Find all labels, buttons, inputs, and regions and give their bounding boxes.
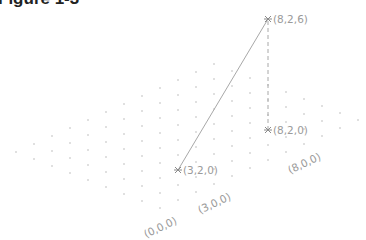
grid-dot [105,156,107,158]
grid-dot [87,179,89,181]
grid-dot [69,172,71,174]
grid-dot [231,130,233,132]
grid-dot [285,136,287,138]
grid-dot [285,91,287,93]
grid-dot [195,116,197,118]
isometric-3d-plot: (3,2,0)(8,2,6)(8,2,0) (0,0,0)(3,0,0)(8,0… [0,0,366,240]
grid-dot [357,119,359,121]
grid-dot [159,192,161,194]
grid-dot [51,135,53,137]
solid-line [178,19,268,170]
grid-dot [195,161,197,163]
point-label: (8,2,6) [273,13,308,25]
grid-dot [231,175,233,177]
grid-dot [213,93,215,95]
point-label: (8,2,0) [273,124,308,136]
grid-dot [267,159,269,161]
grid-dot [213,183,215,185]
grid-dot [321,120,323,122]
point-label: (3,2,0) [183,164,218,176]
grid-dot [213,123,215,125]
grid-dot [285,106,287,108]
grid-dot [105,186,107,188]
grid-dot [141,170,143,172]
grid-dot [69,157,71,159]
grid-dot [141,155,143,157]
grid-dot [159,132,161,134]
grid-dot [177,199,179,201]
grid-dot [177,124,179,126]
grid-dot [123,148,125,150]
point-marker-p2: (8,2,6) [264,13,308,25]
grid-dot [213,138,215,140]
grid-dot [141,125,143,127]
grid-dot [159,207,161,209]
grid-dot [159,147,161,149]
grid-dot [213,78,215,80]
grid-dot [177,94,179,96]
grid-dot [249,92,251,94]
grid-dot [141,185,143,187]
grid-dot [231,85,233,87]
grid-dot [339,112,341,114]
grid-dot [339,127,341,129]
grid-dot [69,142,71,144]
grid-dot [123,118,125,120]
grid-dot [87,149,89,151]
axis-label: (8,0,0) [286,150,323,176]
grid-dot [51,165,53,167]
grid-dot [249,77,251,79]
grid-dot [87,134,89,136]
grid-dot [141,140,143,142]
grid-dot [303,98,305,100]
grid-dot [177,184,179,186]
line-segments [178,19,268,170]
grid-dot [159,102,161,104]
grid-dot [195,86,197,88]
grid-dot [33,158,35,160]
grid-dot [249,152,251,154]
grid-dot [177,154,179,156]
grid-dot [195,176,197,178]
grid-dot [303,113,305,115]
grid-dot [159,117,161,119]
grid-dot [231,100,233,102]
grid-dot [123,193,125,195]
grid-dot [177,109,179,111]
grid-dot [15,151,17,153]
grid-dot [141,95,143,97]
grid-dot [321,135,323,137]
axis-labels: (0,0,0)(3,0,0)(8,0,0) [142,150,323,240]
grid-dot [231,70,233,72]
grid-dot [105,111,107,113]
grid-dot [159,177,161,179]
grid-dot [123,103,125,105]
grid-dot [195,131,197,133]
axis-label: (0,0,0) [142,214,179,240]
grid-dot [195,101,197,103]
grid-dot [213,153,215,155]
grid-dot [87,164,89,166]
grid-dot [123,178,125,180]
grid-dot [141,110,143,112]
grid-dot [285,151,287,153]
grid-dot [177,79,179,81]
grid-dots [15,63,359,209]
grid-dot [231,160,233,162]
grid-dot [285,121,287,123]
grid-dot [69,127,71,129]
grid-dot [231,115,233,117]
grid-dot [123,133,125,135]
grid-dot [159,87,161,89]
grid-dot [303,143,305,145]
grid-dot [51,150,53,152]
point-marker-p3: (8,2,0) [264,124,308,136]
grid-dot [159,162,161,164]
grid-dot [105,126,107,128]
grid-dot [105,171,107,173]
grid-dot [33,143,35,145]
grid-dot [195,146,197,148]
grid-dot [249,107,251,109]
axis-label: (3,0,0) [196,190,233,216]
grid-dot [249,137,251,139]
